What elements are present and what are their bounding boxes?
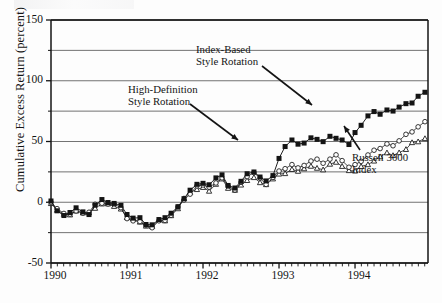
y-tick-label--50: -50 bbox=[9, 256, 43, 268]
annotation-line-2: Style Rotation bbox=[128, 96, 198, 108]
data-point-marker bbox=[283, 166, 288, 171]
annotation-high-definition-style-rotation: High-DefinitionStyle Rotation bbox=[128, 84, 198, 107]
data-point-marker bbox=[214, 181, 219, 186]
data-point-marker bbox=[125, 216, 130, 221]
data-point-marker bbox=[321, 161, 326, 166]
data-point-marker bbox=[423, 119, 428, 124]
data-point-marker bbox=[144, 222, 149, 227]
y-tick-label-150: 150 bbox=[9, 13, 43, 25]
data-point-marker bbox=[422, 90, 427, 95]
data-point-marker bbox=[397, 139, 402, 144]
data-point-marker bbox=[169, 211, 174, 216]
data-point-marker bbox=[296, 166, 301, 171]
data-point-marker bbox=[340, 158, 345, 163]
data-point-marker bbox=[289, 167, 294, 172]
data-point-marker bbox=[372, 109, 377, 114]
data-point-marker bbox=[302, 141, 307, 146]
data-point-marker bbox=[251, 169, 256, 174]
data-point-marker bbox=[175, 204, 180, 209]
data-point-marker bbox=[232, 186, 237, 191]
data-point-marker bbox=[74, 205, 79, 210]
arrow-shaft bbox=[262, 66, 312, 105]
data-point-marker bbox=[61, 213, 66, 218]
data-point-marker bbox=[302, 163, 307, 168]
data-point-marker bbox=[112, 201, 117, 206]
data-point-marker bbox=[213, 175, 218, 180]
data-point-marker bbox=[270, 173, 275, 178]
data-point-marker bbox=[106, 200, 111, 205]
data-point-marker bbox=[283, 144, 288, 149]
data-point-marker bbox=[258, 175, 263, 180]
data-point-marker bbox=[131, 216, 136, 221]
x-tick-label-1992: 1992 bbox=[184, 269, 230, 281]
data-point-marker bbox=[220, 172, 225, 177]
data-point-marker bbox=[404, 132, 409, 137]
data-point-marker bbox=[359, 123, 364, 128]
data-point-marker bbox=[290, 162, 295, 167]
data-point-marker bbox=[346, 142, 351, 147]
data-point-marker bbox=[182, 196, 187, 201]
data-point-marker bbox=[80, 209, 85, 214]
data-point-marker bbox=[163, 215, 168, 220]
data-point-marker bbox=[93, 203, 98, 208]
data-point-marker bbox=[315, 137, 320, 142]
data-point-marker bbox=[239, 179, 244, 184]
data-point-marker bbox=[403, 101, 408, 106]
data-point-marker bbox=[315, 157, 320, 162]
data-point-marker bbox=[410, 100, 415, 105]
data-point-marker bbox=[340, 138, 345, 143]
data-point-marker bbox=[194, 182, 199, 187]
annotation-arrow-index-based-style-rotation bbox=[262, 66, 312, 105]
data-point-marker bbox=[99, 197, 104, 202]
data-point-marker bbox=[333, 159, 338, 164]
data-point-marker bbox=[365, 113, 370, 118]
data-point-marker bbox=[55, 208, 60, 213]
data-point-marker bbox=[391, 143, 396, 148]
x-tick-label-1991: 1991 bbox=[108, 269, 154, 281]
data-point-marker bbox=[391, 109, 396, 114]
annotation-line-2: Index bbox=[352, 164, 408, 176]
data-point-marker bbox=[328, 157, 333, 162]
data-point-marker bbox=[118, 203, 123, 208]
annotation-line-1: Russell 3000 bbox=[352, 152, 408, 164]
data-point-marker bbox=[137, 215, 142, 220]
data-point-marker bbox=[416, 94, 421, 99]
data-point-marker bbox=[251, 175, 256, 180]
data-point-marker bbox=[416, 125, 421, 130]
x-tick-label-1993: 1993 bbox=[260, 269, 306, 281]
data-point-marker bbox=[334, 136, 339, 141]
annotation-line-1: Index-Based bbox=[196, 44, 258, 56]
data-point-marker bbox=[308, 163, 313, 168]
y-tick-label-50: 50 bbox=[9, 134, 43, 146]
data-point-marker bbox=[226, 183, 231, 188]
arrow-shaft bbox=[190, 104, 238, 140]
annotation-index-based-style-rotation: Index-BasedStyle Rotation bbox=[196, 44, 258, 67]
data-point-marker bbox=[49, 198, 54, 203]
data-point-marker bbox=[353, 130, 358, 135]
data-point-marker bbox=[397, 105, 402, 110]
data-point-marker bbox=[201, 181, 206, 186]
data-point-marker bbox=[308, 135, 313, 140]
data-point-marker bbox=[296, 142, 301, 147]
data-point-marker bbox=[334, 153, 339, 158]
data-point-marker bbox=[422, 136, 427, 141]
data-point-marker bbox=[321, 139, 326, 144]
annotation-arrow-high-definition-style-rotation bbox=[190, 104, 238, 140]
data-point-marker bbox=[347, 165, 352, 170]
data-point-marker bbox=[87, 212, 92, 217]
data-point-marker bbox=[264, 178, 269, 183]
data-point-marker bbox=[125, 212, 130, 217]
annotation-line-1: High-Definition bbox=[128, 84, 198, 96]
annotation-russell-3000-index: Russell 3000Index bbox=[352, 152, 408, 175]
data-point-marker bbox=[150, 222, 155, 227]
annotation-line-2: Style Rotation bbox=[196, 56, 258, 68]
data-point-marker bbox=[156, 217, 161, 222]
chart-figure: Cumulative Excess Return (percent) 15010… bbox=[0, 0, 442, 303]
y-tick-label-100: 100 bbox=[9, 73, 43, 85]
y-tick-label-0: 0 bbox=[9, 195, 43, 207]
series-russell-3000-index bbox=[48, 136, 427, 229]
data-point-marker bbox=[385, 142, 390, 147]
data-point-marker bbox=[384, 107, 389, 112]
data-point-marker bbox=[327, 134, 332, 139]
data-point-marker bbox=[277, 169, 282, 174]
